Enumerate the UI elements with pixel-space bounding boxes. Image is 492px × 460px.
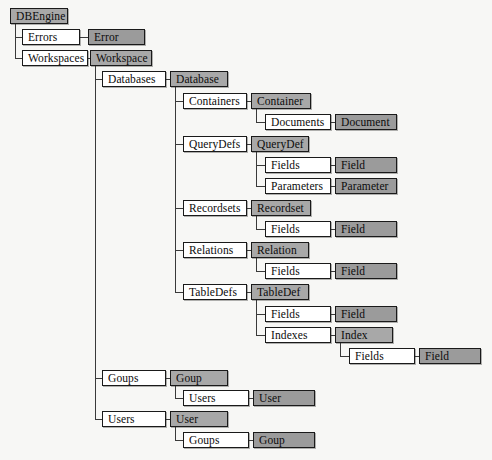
node-tabledefs[interactable]: TableDefs	[183, 284, 247, 300]
object-hierarchy-diagram: DBEngineErrorsErrorWorkspacesWorkspaceDa…	[0, 0, 492, 460]
node-databases[interactable]: Databases	[102, 71, 166, 87]
node-indexes[interactable]: Indexes	[265, 327, 331, 343]
node-querydefs[interactable]: QueryDefs	[183, 136, 247, 152]
node-containers[interactable]: Containers	[183, 93, 247, 109]
node-relations[interactable]: Relations	[183, 242, 247, 258]
node-qd-field[interactable]: Field	[335, 157, 397, 173]
node-idx-field[interactable]: Field	[419, 348, 481, 364]
node-documents[interactable]: Documents	[265, 114, 331, 130]
node-qd-fields[interactable]: Fields	[265, 157, 331, 173]
node-recordset[interactable]: Recordset	[251, 200, 311, 216]
node-rs-field[interactable]: Field	[335, 221, 397, 237]
node-parameters[interactable]: Parameters	[265, 178, 331, 194]
node-td-fields[interactable]: Fields	[265, 306, 331, 322]
node-rs-fields[interactable]: Fields	[265, 221, 331, 237]
node-users[interactable]: Users	[102, 411, 166, 427]
node-td-field[interactable]: Field	[335, 306, 397, 322]
node-recordsets[interactable]: Recordsets	[183, 200, 247, 216]
node-user[interactable]: User	[170, 411, 228, 427]
node-error[interactable]: Error	[88, 29, 145, 45]
node-tabledef[interactable]: TableDef	[251, 284, 309, 300]
node-querydef[interactable]: QueryDef	[251, 136, 309, 152]
node-goup-user[interactable]: User	[253, 390, 315, 406]
node-user-goup[interactable]: Goup	[253, 432, 315, 448]
node-relation[interactable]: Relation	[251, 242, 309, 258]
node-goup-users[interactable]: Users	[183, 390, 249, 406]
node-dbengine[interactable]: DBEngine	[10, 8, 68, 24]
node-workspaces[interactable]: Workspaces	[22, 50, 88, 66]
node-user-goups[interactable]: Goups	[183, 432, 249, 448]
node-database[interactable]: Database	[170, 71, 228, 87]
node-container[interactable]: Container	[251, 93, 311, 109]
node-rel-fields[interactable]: Fields	[265, 263, 331, 279]
node-document[interactable]: Document	[335, 114, 397, 130]
node-goups[interactable]: Goups	[102, 370, 166, 386]
node-goup[interactable]: Goup	[170, 370, 228, 386]
node-rel-field[interactable]: Field	[335, 263, 397, 279]
node-errors[interactable]: Errors	[22, 29, 80, 45]
node-idx-fields[interactable]: Fields	[349, 348, 415, 364]
node-index[interactable]: Index	[335, 327, 393, 343]
node-parameter[interactable]: Parameter	[335, 178, 397, 194]
node-workspace[interactable]: Workspace	[90, 50, 152, 66]
